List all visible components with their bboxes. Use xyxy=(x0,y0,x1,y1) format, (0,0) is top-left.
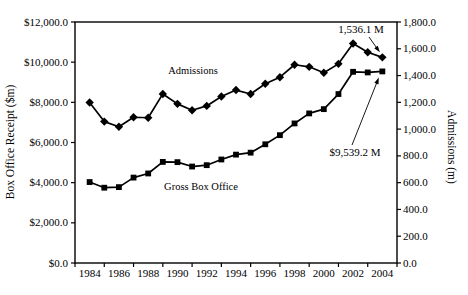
admissions-series xyxy=(85,39,386,131)
svg-text:$10,000.0: $10,000.0 xyxy=(24,56,69,68)
svg-text:0.0: 0.0 xyxy=(403,257,417,269)
svg-text:1,200.0: 1,200.0 xyxy=(403,96,437,108)
svg-text:1994: 1994 xyxy=(225,267,248,279)
svg-text:400.0: 400.0 xyxy=(403,203,428,215)
svg-text:1,000.0: 1,000.0 xyxy=(403,123,437,135)
svg-text:1984: 1984 xyxy=(79,267,102,279)
svg-text:2004: 2004 xyxy=(371,267,394,279)
left-axis-title: Box Office Receipt ($m) xyxy=(4,85,16,199)
plot-area: 1984198619881990199219941996199820002002… xyxy=(0,0,468,295)
svg-text:800.0: 800.0 xyxy=(403,149,428,161)
admissions-value-annotation: 1,536.1 M xyxy=(338,23,384,35)
svg-text:1996: 1996 xyxy=(254,267,277,279)
svg-text:1,800.0: 1,800.0 xyxy=(403,16,437,28)
right-axis: 0.0200.0400.0600.0800.01,000.01,200.01,4… xyxy=(397,16,437,269)
svg-text:$4,000.0: $4,000.0 xyxy=(30,176,69,188)
svg-text:1998: 1998 xyxy=(284,267,307,279)
svg-text:600.0: 600.0 xyxy=(403,176,428,188)
x-axis: 1984198619881990199219941996199820002002… xyxy=(75,263,397,279)
svg-text:1,400.0: 1,400.0 xyxy=(403,69,437,81)
chart: 1984198619881990199219941996199820002002… xyxy=(0,0,468,295)
admissions-annotation-arrow xyxy=(369,37,380,52)
svg-text:200.0: 200.0 xyxy=(403,230,428,242)
svg-text:1986: 1986 xyxy=(108,267,131,279)
right-axis-title: Admissions (m) xyxy=(446,110,458,184)
svg-text:1990: 1990 xyxy=(166,267,189,279)
svg-text:1988: 1988 xyxy=(137,267,160,279)
plot-border xyxy=(75,22,397,263)
svg-text:1,600.0: 1,600.0 xyxy=(403,42,437,54)
svg-text:2000: 2000 xyxy=(313,267,336,279)
admissions-series-label: Admissions xyxy=(168,65,218,76)
svg-text:$8,000.0: $8,000.0 xyxy=(30,96,69,108)
svg-text:$2,000.0: $2,000.0 xyxy=(30,216,69,228)
box-office-annotation-arrow xyxy=(352,77,379,145)
left-axis: $0.0$2,000.0$4,000.0$6,000.0$8,000.0$10,… xyxy=(24,16,75,269)
svg-text:1992: 1992 xyxy=(196,267,218,279)
box-office-value-annotation: $9,539.2 M xyxy=(329,146,380,158)
svg-text:$12,000.0: $12,000.0 xyxy=(24,16,69,28)
svg-text:$0.0: $0.0 xyxy=(49,257,69,269)
gross-box-office-series-label: Gross Box Office xyxy=(164,181,238,192)
svg-text:2002: 2002 xyxy=(342,267,364,279)
svg-text:$6,000.0: $6,000.0 xyxy=(30,136,69,148)
